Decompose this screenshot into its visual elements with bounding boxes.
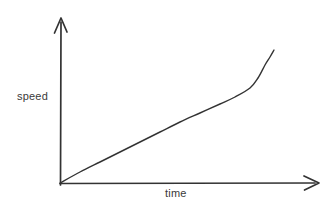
graph-drawing — [0, 0, 335, 217]
y-axis-label: speed — [17, 91, 48, 102]
y-axis-line — [61, 22, 62, 185]
x-axis-line — [60, 183, 315, 184]
speed-time-curve — [60, 50, 274, 183]
x-axis-label: time — [165, 188, 187, 199]
figure-canvas: speed time — [0, 0, 335, 217]
